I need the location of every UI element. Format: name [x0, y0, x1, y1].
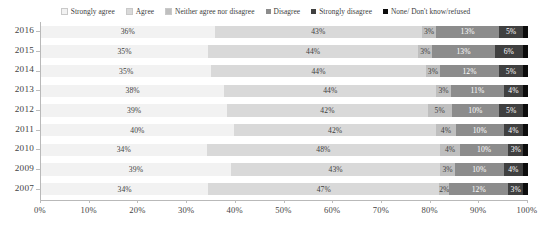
bar-segment[interactable] [523, 85, 528, 97]
bar-segment[interactable] [523, 183, 528, 195]
legend-item[interactable]: Neither agree nor disagree [165, 7, 254, 16]
stacked-bar[interactable]: 40%42%4%10%4% [41, 124, 528, 136]
stacked-bar[interactable]: 36%43%3%13%5% [41, 26, 528, 38]
bar-segment[interactable]: 4% [440, 144, 459, 156]
y-axis-tick [36, 169, 40, 170]
bar-segment[interactable]: 12% [440, 65, 498, 77]
bar-segment[interactable]: 12% [449, 183, 508, 195]
chart-row: 200734%47%2%12%3% [40, 180, 527, 200]
bar-segment[interactable] [523, 45, 528, 57]
bar-segment[interactable]: 10% [456, 124, 504, 136]
bar-segment[interactable]: 44% [211, 65, 425, 77]
bar-segment[interactable] [523, 65, 528, 77]
bar-segment[interactable]: 48% [207, 144, 441, 156]
y-axis-tick [36, 130, 40, 131]
legend-item[interactable]: None/ Don't know/refused [383, 7, 470, 16]
y-axis-tick [36, 189, 40, 190]
bar-segment[interactable]: 42% [234, 124, 437, 136]
x-axis-label: 50% [264, 205, 304, 216]
x-axis-tick [235, 200, 236, 203]
bar-segment[interactable]: 4% [504, 124, 523, 136]
stacked-bar[interactable]: 35%44%3%13%6% [41, 45, 528, 57]
bar-segment[interactable]: 13% [436, 26, 499, 38]
bar-segment[interactable]: 44% [208, 45, 418, 57]
legend-item[interactable]: Agree [126, 7, 154, 16]
bar-segment-value-label: 4% [508, 165, 518, 174]
bar-segment-value-label: 10% [472, 165, 486, 174]
bar-segment[interactable]: 34% [41, 183, 208, 195]
bar-segment[interactable]: 3% [436, 85, 450, 97]
stacked-bar[interactable]: 39%43%3%10%4% [41, 163, 528, 175]
bar-segment[interactable]: 11% [451, 85, 504, 97]
bar-segment[interactable]: 2% [439, 183, 449, 195]
bar-segment-value-label: 10% [477, 145, 491, 154]
legend-item[interactable]: Strongly disagree [311, 7, 372, 16]
bar-segment[interactable]: 4% [436, 124, 455, 136]
bar-segment[interactable]: 10% [455, 163, 504, 175]
chart-row: 201034%48%4%10%3% [40, 140, 527, 160]
stacked-bar[interactable]: 39%42%5%10%5% [41, 104, 528, 116]
bar-segment-value-label: 44% [323, 86, 337, 95]
x-axis-tick [40, 200, 41, 203]
bar-segment[interactable]: 47% [208, 183, 439, 195]
bar-segment-value-label: 11% [470, 86, 484, 95]
legend-swatch-icon [165, 8, 172, 15]
bar-segment[interactable]: 35% [41, 45, 208, 57]
legend-item[interactable]: Disagree [266, 7, 301, 16]
bar-segment[interactable]: 3% [418, 45, 432, 57]
bar-segment-value-label: 10% [473, 126, 487, 135]
bar-segment[interactable]: 3% [422, 26, 436, 38]
stacked-bar[interactable]: 34%47%2%12%3% [41, 183, 528, 195]
bar-segment[interactable] [523, 104, 528, 116]
bar-segment[interactable]: 40% [41, 124, 234, 136]
bar-segment[interactable] [523, 144, 528, 156]
bar-segment[interactable]: 36% [41, 26, 215, 38]
bar-segment[interactable]: 3% [426, 65, 441, 77]
bar-segment[interactable]: 44% [224, 85, 436, 97]
bar-segment[interactable] [523, 163, 528, 175]
bar-segment[interactable]: 5% [499, 65, 523, 77]
bar-segment[interactable]: 4% [504, 85, 523, 97]
bar-segment-value-label: 48% [316, 145, 330, 154]
stacked-bar[interactable]: 35%44%3%12%5% [41, 65, 528, 77]
bar-segment[interactable]: 5% [428, 104, 452, 116]
y-axis-tick [36, 71, 40, 72]
bar-segment-value-label: 43% [329, 165, 343, 174]
stacked-bar[interactable]: 38%44%3%11%4% [41, 85, 528, 97]
bar-segment[interactable]: 3% [508, 144, 523, 156]
bar-segment[interactable]: 3% [440, 163, 455, 175]
stacked-bar[interactable]: 34%48%4%10%3% [41, 144, 528, 156]
bar-segment-value-label: 38% [125, 86, 139, 95]
bar-segment-value-label: 42% [328, 126, 342, 135]
bar-segment[interactable]: 34% [41, 144, 207, 156]
bar-segment[interactable] [523, 124, 528, 136]
bar-segment[interactable]: 39% [41, 163, 231, 175]
legend-swatch-icon [61, 8, 68, 15]
bar-segment-value-label: 4% [508, 86, 518, 95]
bar-segment[interactable]: 5% [499, 104, 523, 116]
bar-segment-value-label: 13% [461, 27, 475, 36]
bar-segment[interactable]: 35% [41, 65, 211, 77]
bar-segment[interactable]: 42% [227, 104, 428, 116]
y-axis-label: 2015 [2, 44, 34, 56]
bar-segment[interactable]: 13% [432, 45, 494, 57]
bar-segment[interactable]: 39% [41, 104, 227, 116]
bar-segment[interactable]: 10% [460, 144, 509, 156]
bar-segment[interactable]: 38% [41, 85, 224, 97]
x-axis-label: 10% [69, 205, 109, 216]
bar-segment-value-label: 40% [130, 126, 144, 135]
bar-segment[interactable]: 43% [231, 163, 440, 175]
bar-segment[interactable]: 43% [215, 26, 422, 38]
bar-segment[interactable]: 10% [452, 104, 500, 116]
legend-swatch-icon [266, 9, 271, 14]
bar-segment-value-label: 4% [445, 145, 455, 154]
chart-row: 200939%43%3%10%4% [40, 160, 527, 180]
bar-segment[interactable]: 6% [495, 45, 524, 57]
legend-item[interactable]: Strongly agree [61, 7, 115, 16]
bar-segment[interactable] [523, 26, 528, 38]
bar-segment[interactable]: 3% [508, 183, 523, 195]
y-axis-label: 2011 [2, 123, 34, 135]
bar-segment[interactable]: 5% [499, 26, 523, 38]
bar-segment[interactable]: 4% [504, 163, 523, 175]
